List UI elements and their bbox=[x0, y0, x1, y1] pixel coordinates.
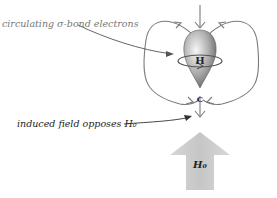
induced-field-label: induced field opposes H₀ bbox=[17, 118, 137, 129]
hydrogen-label: H bbox=[195, 55, 204, 66]
sigma-electrons-label: circulating σ-bond electrons bbox=[2, 18, 139, 29]
sigma-label-pointer bbox=[78, 25, 172, 54]
sigma-pointer-arrowhead-icon bbox=[166, 51, 174, 57]
carbon-label: C bbox=[197, 94, 203, 104]
induced-pointer-arrowhead-icon bbox=[184, 115, 192, 121]
shielding-diagram: H C circulating σ-bond electrons induced… bbox=[0, 0, 277, 198]
applied-field-label: H₀ bbox=[192, 159, 207, 170]
